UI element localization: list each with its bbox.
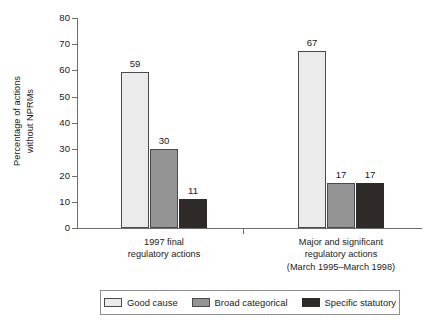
y-tick-40 [72,123,78,124]
y-tick-60 [72,70,78,71]
y-tick-label-50: 50 [44,92,70,102]
legend-swatch-good-cause-icon [104,298,122,307]
chart-legend: Good cause Broad categorical Specific st… [100,290,400,315]
y-tick-label-60: 60 [44,65,70,75]
y-tick-80 [72,18,78,19]
bar-group1-good-cause [121,72,149,228]
legend-item-good-cause: Good cause [104,298,178,308]
y-tick-label-0: 0 [44,223,70,233]
bar-group2-broad-categorical [327,183,355,228]
bar-value-group2-good-cause: 67 [298,38,326,48]
legend-label-broad-categorical: Broad categorical [215,298,288,308]
y-axis-title-text: Percentage of actions without NPRMs [12,76,35,166]
y-tick-0 [72,228,78,229]
bar-group2-good-cause [298,51,326,228]
y-tick-label-80: 80 [44,13,70,23]
category-label-group2: Major and significant regulatory actions… [261,236,421,273]
y-tick-20 [72,176,78,177]
legend-label-specific-statutory: Specific statutory [325,298,396,308]
x-axis-line [77,228,422,229]
bar-group1-specific-statutory [179,199,207,228]
bar-value-group1-broad-categorical: 30 [150,136,178,146]
y-tick-50 [72,97,78,98]
y-axis-title: Percentage of actions without NPRMs [11,46,45,196]
legend-label-good-cause: Good cause [127,298,178,308]
legend-swatch-broad-categorical-icon [192,298,210,307]
legend-item-specific-statutory: Specific statutory [302,298,396,308]
bar-value-group1-good-cause: 59 [121,59,149,69]
y-tick-label-20: 20 [44,171,70,181]
category-label-group1: 1997 final regulatory actions [104,236,224,261]
bar-value-group1-specific-statutory: 11 [179,186,207,196]
bar-value-group2-specific-statutory: 17 [356,170,384,180]
bar-group1-broad-categorical [150,149,178,228]
bar-value-group2-broad-categorical: 17 [327,170,355,180]
legend-swatch-specific-statutory-icon [302,298,320,307]
y-tick-label-40: 40 [44,118,70,128]
bar-group2-specific-statutory [356,183,384,228]
y-tick-30 [72,149,78,150]
bar-chart: Percentage of actions without NPRMs 80 7… [0,0,445,325]
y-tick-label-30: 30 [44,144,70,154]
legend-item-broad-categorical: Broad categorical [192,298,288,308]
y-tick-70 [72,44,78,45]
y-tick-label-10: 10 [44,197,70,207]
y-tick-10 [72,202,78,203]
y-tick-label-70: 70 [44,39,70,49]
x-tick-separator [243,229,244,234]
